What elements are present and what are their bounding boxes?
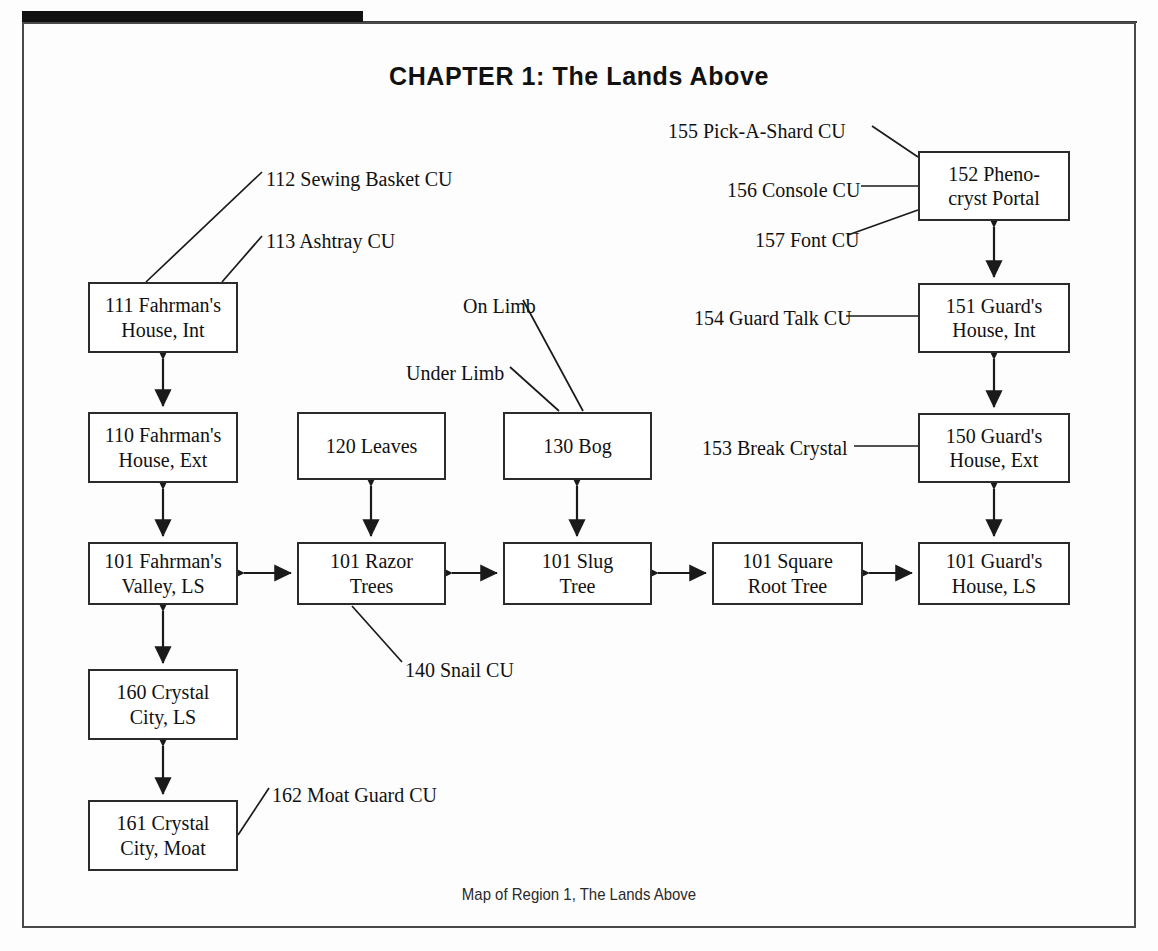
node-120-leaves[interactable]: 120 Leaves <box>297 412 446 480</box>
node-151-guards-house-int[interactable]: 151 Guard's House, Int <box>918 283 1070 353</box>
node-label-line2: House, Ext <box>946 448 1042 472</box>
node-label-line1: 160 Crystal <box>117 680 210 704</box>
node-label-line1: 152 Pheno- <box>948 162 1040 186</box>
callout-140-snail-cu: 140 Snail CU <box>405 659 514 682</box>
node-label-line1: 110 Fahrman's <box>105 423 222 447</box>
node-label-line1: 101 Fahrman's <box>104 549 221 573</box>
callout-155-pick-a-shard-cu: 155 Pick-A-Shard CU <box>668 120 846 143</box>
node-label-line2: Valley, LS <box>104 574 221 598</box>
node-label-line2: House, LS <box>946 574 1042 598</box>
document-page: CHAPTER 1: The Lands Above <box>0 0 1158 951</box>
node-101-fahrmans-valley-ls[interactable]: 101 Fahrman's Valley, LS <box>88 542 238 605</box>
node-label-line2: City, LS <box>117 705 210 729</box>
node-101-razor-trees[interactable]: 101 Razor Trees <box>297 542 446 605</box>
node-label-line1: 101 Guard's <box>946 549 1042 573</box>
node-label-line1: 101 Razor <box>330 549 413 573</box>
callout-154-guard-talk-cu: 154 Guard Talk CU <box>694 307 852 330</box>
callout-on-limb: On Limb <box>463 295 536 318</box>
callout-157-font-cu: 157 Font CU <box>755 229 859 252</box>
page-title: CHAPTER 1: The Lands Above <box>0 62 1158 91</box>
node-111-fahrmans-house-int[interactable]: 111 Fahrman's House, Int <box>88 282 238 353</box>
node-label-line1: 101 Slug <box>542 549 614 573</box>
node-152-phenocryst-portal[interactable]: 152 Pheno- cryst Portal <box>918 151 1070 221</box>
node-label-line2: House, Int <box>946 318 1042 342</box>
node-label-line2: Trees <box>330 574 413 598</box>
node-label-line1: 120 Leaves <box>326 434 418 458</box>
callout-under-limb: Under Limb <box>406 362 504 385</box>
callout-156-console-cu: 156 Console CU <box>727 179 860 202</box>
callout-153-break-crystal: 153 Break Crystal <box>702 437 848 460</box>
node-label-line2: House, Int <box>105 318 221 342</box>
node-130-bog[interactable]: 130 Bog <box>503 412 652 480</box>
node-161-crystal-city-moat[interactable]: 161 Crystal City, Moat <box>88 800 238 871</box>
node-label-line2: cryst Portal <box>948 186 1040 210</box>
node-label-line1: 101 Square <box>742 549 833 573</box>
node-110-fahrmans-house-ext[interactable]: 110 Fahrman's House, Ext <box>88 412 238 483</box>
node-label-line1: 111 Fahrman's <box>105 293 221 317</box>
node-label-line2: Tree <box>542 574 614 598</box>
node-label-line1: 130 Bog <box>543 434 611 458</box>
node-160-crystal-city-ls[interactable]: 160 Crystal City, LS <box>88 669 238 740</box>
node-101-square-root-tree[interactable]: 101 Square Root Tree <box>712 542 863 605</box>
node-label-line2: Root Tree <box>742 574 833 598</box>
node-101-guards-house-ls[interactable]: 101 Guard's House, LS <box>918 542 1070 605</box>
figure-caption: Map of Region 1, The Lands Above <box>69 885 1088 905</box>
node-101-slug-tree[interactable]: 101 Slug Tree <box>503 542 652 605</box>
callout-162-moat-guard-cu: 162 Moat Guard CU <box>272 784 437 807</box>
node-label-line2: House, Ext <box>105 448 222 472</box>
node-label-line1: 161 Crystal <box>117 811 210 835</box>
node-label-line1: 151 Guard's <box>946 294 1042 318</box>
node-150-guards-house-ext[interactable]: 150 Guard's House, Ext <box>918 413 1070 483</box>
callout-113-ashtray-cu: 113 Ashtray CU <box>266 230 395 253</box>
node-label-line1: 150 Guard's <box>946 424 1042 448</box>
callout-112-sewing-basket-cu: 112 Sewing Basket CU <box>266 168 452 191</box>
node-label-line2: City, Moat <box>117 836 210 860</box>
